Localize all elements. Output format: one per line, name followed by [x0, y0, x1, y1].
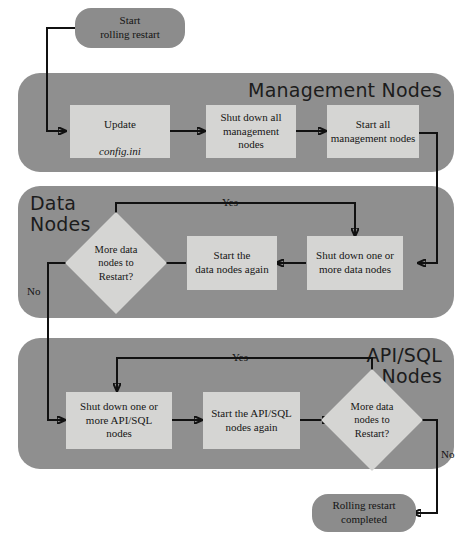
edge-label-api-sql-no: No [441, 448, 454, 460]
process-start-api-sql-nodes: Start the API/SQL nodes again [203, 392, 300, 449]
process-update-config-line2: config.ini [99, 145, 141, 157]
process-shutdown-api-sql-nodes: Shut down one or more API/SQL nodes [66, 392, 172, 449]
edge-label-api-sql-yes: Yes [232, 351, 248, 363]
panel-title-management-nodes: Management Nodes [214, 80, 442, 101]
process-start-data-nodes: Start the data nodes again [187, 236, 277, 290]
process-shutdown-data-nodes: Shut down one or more data nodes [307, 236, 403, 290]
process-shutdown-management-nodes: Shut down all management nodes [206, 105, 296, 158]
terminal-start: Start rolling restart [75, 8, 185, 48]
flowchart-canvas: Management Nodes Data Nodes API/SQL Node… [0, 0, 472, 546]
decision-more-api-sql-nodes: More data nodes to Restart? [336, 384, 408, 456]
decision-more-data-nodes-label: More data nodes to Restart? [80, 227, 152, 299]
decision-more-api-sql-nodes-label: More data nodes to Restart? [336, 384, 408, 456]
process-update-config-line1: Update [104, 118, 136, 130]
edge-label-data-no: No [27, 285, 40, 297]
decision-more-data-nodes: More data nodes to Restart? [80, 227, 152, 299]
terminal-end: Rolling restart completed [312, 494, 416, 532]
process-update-config: Update config.ini [70, 105, 170, 158]
process-start-management-nodes: Start all management nodes [327, 105, 419, 158]
edge-label-data-yes: Yes [222, 196, 238, 208]
